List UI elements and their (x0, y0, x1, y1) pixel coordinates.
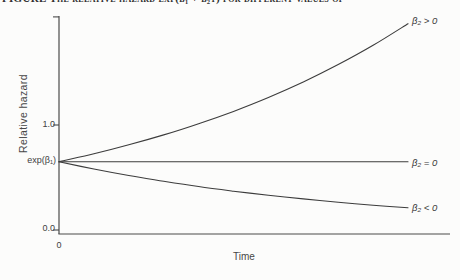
curve-beta2-positive (59, 24, 408, 162)
curve-label-beta2-zero: β₂ = 0 (412, 157, 458, 168)
curve-beta2-negative (59, 162, 408, 208)
y-tick-label-1.0: 1.0 (29, 119, 55, 130)
curve-label-beta2-positive: β₂ > 0 (412, 15, 458, 26)
y-tick-label-0.0: 0.0 (29, 223, 55, 234)
baseline-annotation-exp-beta1: exp(β₁) (4, 155, 56, 166)
x-axis-title: Time (204, 251, 284, 262)
y-axis-title: Relative hazard (17, 58, 30, 170)
hazard-chart (0, 0, 460, 280)
figure-page: FIGURE The relative hazard exp(β₁ + β₂t)… (0, 0, 460, 280)
curve-label-beta2-negative: β₂ < 0 (412, 202, 458, 213)
x-tick-label-0: 0 (52, 240, 66, 251)
